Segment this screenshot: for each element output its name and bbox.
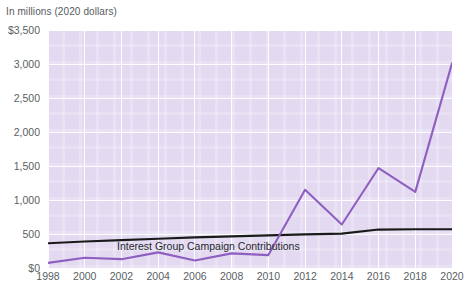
x-axis-tick-label: 2000 [73, 270, 96, 282]
x-axis-tick-label: 2018 [404, 270, 427, 282]
y-axis-tick-label: 1,000 [14, 194, 40, 206]
plot-area: Interest Group Campaign Contributions In… [48, 30, 452, 268]
x-axis-tick-label: 2002 [110, 270, 133, 282]
series-layer [48, 30, 452, 268]
y-axis-tick-label: 1,500 [14, 160, 40, 172]
y-axis: $3,5003,0002,5002,0001,5001,000500$0 [0, 30, 44, 268]
x-axis-tick-label: 1998 [36, 270, 59, 282]
y-axis-tick-label: 2,500 [14, 92, 40, 104]
series-line-interest-group-direct-spending [48, 63, 452, 263]
x-axis-tick-label: 2006 [183, 270, 206, 282]
x-axis-tick-label: 2012 [293, 270, 316, 282]
x-axis-tick-label: 2010 [257, 270, 280, 282]
x-axis-tick-label: 2004 [146, 270, 169, 282]
series-label-campaign-contributions: Interest Group Campaign Contributions [117, 240, 300, 252]
y-axis-tick-label: $3,500 [8, 24, 40, 36]
x-axis: 1998200020022004200620082010201220142016… [48, 270, 452, 288]
x-axis-tick-label: 2014 [330, 270, 353, 282]
y-axis-tick-label: 2,000 [14, 126, 40, 138]
x-axis-tick-label: 2016 [367, 270, 390, 282]
x-axis-tick-label: 2020 [440, 270, 463, 282]
x-axis-tick-label: 2008 [220, 270, 243, 282]
y-axis-tick-label: 3,000 [14, 58, 40, 70]
chart-subtitle: In millions (2020 dollars) [6, 6, 117, 17]
y-axis-tick-label: 500 [22, 228, 40, 240]
